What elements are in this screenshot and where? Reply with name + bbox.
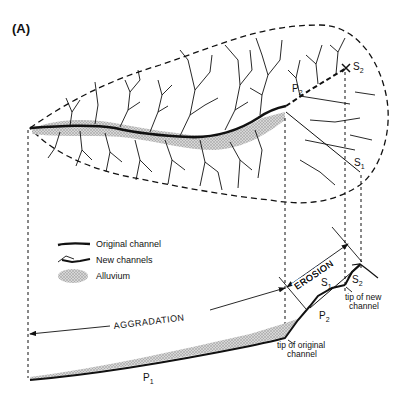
aggradation-label: AGGRADATION (113, 312, 185, 331)
p2-plan-label: P2 (292, 83, 303, 96)
legend-original-channel-label: Original channel (96, 239, 161, 249)
tip-new-label-line2: channel (349, 301, 379, 311)
legend-new-channels-symbol (58, 256, 90, 262)
legend: Original channel New channels Alluvium (58, 239, 161, 283)
legend-new-channels-label: New channels (96, 255, 153, 265)
alluvium-band (32, 112, 285, 150)
aggradation-wedge (30, 318, 300, 380)
drainage-basin-diagram: (A) (0, 0, 402, 398)
p2-profile-label: P2 (319, 310, 330, 323)
tributary-network (48, 38, 282, 190)
s1-profile-label: S1 (321, 277, 332, 290)
s2-profile-label: S2 (352, 274, 363, 287)
tip-original-label-line2: channel (287, 349, 317, 359)
basin-outline (30, 25, 388, 203)
legend-original-channel-symbol (58, 243, 90, 245)
legend-alluvium-label: Alluvium (96, 271, 130, 281)
aggradation-dimension (30, 288, 285, 334)
panel-label: (A) (12, 21, 30, 36)
projection-lines (28, 72, 361, 378)
s2-plan-label: S2 (353, 61, 364, 74)
legend-alluvium-symbol (58, 269, 88, 283)
p1-label: P1 (143, 372, 154, 385)
